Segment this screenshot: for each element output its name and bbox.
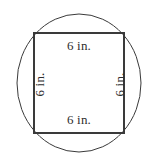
side-length-label-right: 6 in. bbox=[113, 60, 126, 110]
side-length-label-bottom: 6 in. bbox=[34, 113, 124, 126]
figure-canvas bbox=[0, 0, 153, 168]
side-length-label-top: 6 in. bbox=[34, 39, 124, 52]
side-length-label-left: 6 in. bbox=[33, 60, 46, 110]
geometry-figure: 6 in. 6 in. 6 in. 6 in. bbox=[0, 0, 153, 168]
